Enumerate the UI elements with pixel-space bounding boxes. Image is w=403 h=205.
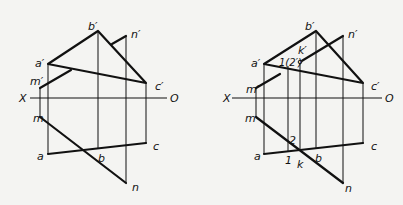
label-n: n — [345, 182, 352, 195]
label-a: a — [37, 150, 44, 163]
label-m: m — [245, 112, 256, 125]
label-a-prime: a′ — [35, 57, 45, 70]
left-diagram: b′ n′ a′ m′ c′ X O m a b c n — [18, 20, 179, 194]
label-m-prime: m′ — [30, 75, 44, 88]
label-1: 1 — [285, 154, 292, 167]
line-mn-front-segment-1 — [40, 70, 71, 88]
label-overlap-1-2: 1(2′) — [279, 57, 302, 68]
diagram-canvas: b′ n′ a′ m′ c′ X O m a b c n b′ — [0, 0, 403, 205]
label-c: c — [371, 140, 377, 153]
line-mn-front-segment-1 — [256, 74, 280, 88]
line-mn-top-view — [40, 117, 126, 183]
label-b: b — [315, 152, 322, 165]
label-n-prime: n′ — [348, 28, 358, 41]
label-2: 2 — [289, 134, 296, 147]
label-a: a — [254, 150, 261, 163]
label-O: O — [385, 92, 394, 105]
label-n-prime: n′ — [131, 28, 141, 41]
label-X: X — [18, 92, 27, 105]
line-mn-front-segment-2 — [112, 36, 126, 44]
label-c: c — [153, 140, 159, 153]
label-b-prime: b′ — [88, 20, 98, 33]
label-m-prime: m′ — [246, 83, 260, 96]
label-X: X — [222, 92, 231, 105]
projection-figure: b′ n′ a′ m′ c′ X O m a b c n b′ — [0, 0, 403, 205]
label-a-prime: a′ — [251, 57, 261, 70]
line-ac-top-view — [48, 143, 146, 154]
label-k: k — [297, 158, 304, 171]
label-k-prime: k′ — [298, 44, 307, 57]
label-c-prime: c′ — [371, 80, 380, 93]
label-n: n — [132, 181, 139, 194]
line-ac-top-view — [264, 143, 363, 154]
label-c-prime: c′ — [155, 80, 164, 93]
label-b: b — [98, 152, 105, 165]
right-diagram: b′ n′ k′ 1(2′) a′ m′ c′ X O m 2 a 1 k b … — [222, 20, 394, 195]
label-b-prime: b′ — [305, 20, 315, 33]
label-O: O — [170, 92, 179, 105]
label-m: m — [33, 112, 44, 125]
